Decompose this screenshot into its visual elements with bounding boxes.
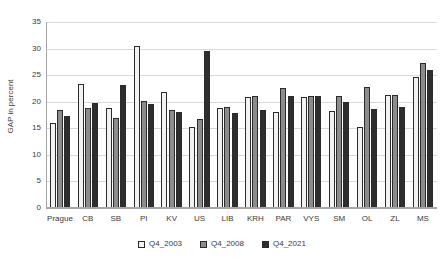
bar — [357, 127, 363, 208]
bar — [329, 111, 335, 208]
bar-group — [269, 22, 297, 208]
bar — [120, 85, 126, 208]
y-axis-tick-label: 35 — [32, 18, 41, 26]
x-axis-category-label: MS — [409, 210, 437, 228]
y-axis-title: GAP in percent — [2, 0, 18, 212]
bar — [413, 77, 419, 208]
bar — [189, 127, 195, 208]
bar — [92, 103, 98, 208]
bar-group — [74, 22, 102, 208]
bar — [420, 63, 426, 208]
y-axis-tick-label: 30 — [32, 45, 41, 53]
bar — [161, 92, 167, 208]
y-axis-tick-label: 5 — [37, 177, 41, 185]
bar — [134, 46, 140, 208]
x-axis-category-label: VYS — [297, 210, 325, 228]
bar-group — [158, 22, 186, 208]
bar — [308, 96, 314, 208]
bar — [148, 104, 154, 208]
legend-item[interactable]: Q4_2008 — [200, 240, 244, 248]
bar — [85, 108, 91, 208]
plot-area — [46, 22, 437, 208]
x-axis-category-label: PI — [130, 210, 158, 228]
y-axis-tick-label: 15 — [32, 124, 41, 132]
bar-group — [409, 22, 437, 208]
bar — [78, 84, 84, 208]
bar — [252, 96, 258, 208]
bar — [301, 97, 307, 208]
bar-groups — [46, 22, 437, 208]
x-axis-category-labels: PragueCBSBPIKVUSLIBKRHPARVYSSMOLZLMS — [46, 210, 437, 228]
x-axis-category-label: ZL — [381, 210, 409, 228]
legend-swatch-icon — [262, 241, 269, 248]
bar — [141, 101, 147, 208]
bar — [57, 110, 63, 208]
bar-group — [297, 22, 325, 208]
y-axis-tick-labels: 05101520253035 — [18, 22, 44, 208]
legend-swatch-icon — [138, 241, 145, 248]
bar — [64, 116, 70, 208]
bar — [224, 107, 230, 208]
bar — [371, 109, 377, 208]
y-axis-tick-label: 0 — [37, 204, 41, 212]
bar-group — [214, 22, 242, 208]
bar-group — [102, 22, 130, 208]
bar — [288, 96, 294, 208]
bar-group — [130, 22, 158, 208]
bar — [197, 119, 203, 208]
gridline — [46, 208, 437, 209]
bar — [399, 107, 405, 208]
bar — [427, 70, 433, 208]
legend-swatch-icon — [200, 241, 207, 248]
bar-group — [241, 22, 269, 208]
bar — [336, 96, 342, 208]
x-axis-category-label: OL — [353, 210, 381, 228]
bar — [315, 96, 321, 208]
x-axis-category-label: SM — [325, 210, 353, 228]
bar — [273, 112, 279, 208]
x-axis-category-label: Prague — [46, 210, 74, 228]
x-axis-category-label: KV — [158, 210, 186, 228]
bar — [245, 97, 251, 208]
bar — [113, 118, 119, 208]
bar — [280, 88, 286, 208]
y-axis-title-label: GAP in percent — [6, 79, 15, 133]
bar — [176, 112, 182, 208]
bar — [260, 110, 266, 208]
bar-group — [381, 22, 409, 208]
bar-group — [325, 22, 353, 208]
bar — [217, 108, 223, 208]
x-axis-category-label: SB — [102, 210, 130, 228]
legend-label: Q4_2008 — [211, 240, 244, 248]
bar — [364, 87, 370, 208]
bar-group — [186, 22, 214, 208]
bar-group — [353, 22, 381, 208]
x-axis-category-label: LIB — [214, 210, 242, 228]
legend-label: Q4_2003 — [149, 240, 182, 248]
y-axis-tick-label: 10 — [32, 151, 41, 159]
chart-legend: Q4_2003Q4_2008Q4_2021 — [0, 236, 444, 252]
x-axis-line — [46, 207, 437, 208]
x-axis-category-label: CB — [74, 210, 102, 228]
bar — [232, 113, 238, 208]
y-axis-tick-label: 20 — [32, 98, 41, 106]
legend-label: Q4_2021 — [273, 240, 306, 248]
y-axis-tick-label: 25 — [32, 71, 41, 79]
legend-item[interactable]: Q4_2021 — [262, 240, 306, 248]
bar — [385, 95, 391, 208]
bar — [106, 108, 112, 208]
x-axis-category-label: PAR — [269, 210, 297, 228]
bar — [169, 110, 175, 208]
legend-item[interactable]: Q4_2003 — [138, 240, 182, 248]
bar-chart: GAP in percent 05101520253035 PragueCBSB… — [0, 0, 444, 266]
bar — [204, 51, 210, 208]
bar — [50, 123, 56, 208]
bar — [343, 102, 349, 208]
x-axis-category-label: US — [186, 210, 214, 228]
x-axis-category-label: KRH — [241, 210, 269, 228]
bar-group — [46, 22, 74, 208]
bar — [392, 95, 398, 208]
